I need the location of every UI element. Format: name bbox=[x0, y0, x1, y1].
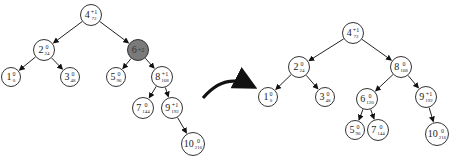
tree-edge bbox=[429, 108, 433, 122]
node-key: 4 bbox=[347, 28, 352, 38]
node-balance: +1 bbox=[426, 91, 432, 97]
node-balance: 0 bbox=[369, 93, 372, 99]
tree-edge bbox=[100, 22, 129, 43]
node-key: 1 bbox=[7, 72, 12, 82]
tree-edge bbox=[306, 75, 318, 88]
node-value: 144 bbox=[142, 109, 150, 114]
node-key: 8 bbox=[394, 62, 399, 72]
before-tree-node-6: 6+2 bbox=[127, 39, 149, 61]
node-value: 0 bbox=[270, 98, 273, 103]
node-balance: +1 bbox=[91, 9, 97, 15]
after-tree-node-8: 80168 bbox=[390, 56, 412, 78]
node-meta: 024 bbox=[300, 61, 305, 73]
before-tree-node-3: 3048 bbox=[60, 67, 80, 87]
node-meta: 0216 bbox=[195, 138, 203, 150]
before-tree-node-4: 4+172 bbox=[80, 4, 102, 26]
node-meta: 0216 bbox=[439, 128, 447, 140]
before-tree-node-7: 70144 bbox=[132, 97, 154, 119]
after-tree-node-4: 4+172 bbox=[342, 22, 364, 44]
node-meta: +2 bbox=[138, 47, 144, 54]
node-key: 3 bbox=[65, 72, 70, 82]
after-tree-node-5: 5096 bbox=[345, 120, 365, 140]
node-key: 8 bbox=[155, 72, 160, 82]
node-meta: 00 bbox=[270, 91, 273, 103]
node-key: 2 bbox=[39, 45, 44, 55]
node-key: 4 bbox=[85, 10, 90, 20]
node-key: 9 bbox=[165, 103, 170, 113]
node-value: 144 bbox=[377, 131, 385, 136]
tree-edge bbox=[123, 59, 131, 69]
node-key: 2 bbox=[294, 62, 299, 72]
node-balance: 0 bbox=[357, 124, 360, 130]
node-balance: 0 bbox=[441, 128, 444, 134]
node-value: 168 bbox=[161, 78, 169, 83]
node-key: 10 bbox=[184, 139, 194, 149]
before-tree-node-9: 9+1192 bbox=[161, 97, 183, 119]
node-key: 5 bbox=[111, 72, 116, 82]
node-key: 7 bbox=[371, 125, 376, 135]
tree-edge bbox=[165, 87, 168, 96]
tree-edge bbox=[20, 57, 36, 70]
node-key: 5 bbox=[350, 125, 355, 135]
node-key: 6 bbox=[360, 94, 365, 104]
tree-edge bbox=[145, 58, 154, 68]
node-key: 7 bbox=[136, 103, 141, 113]
node-meta: 0144 bbox=[142, 102, 150, 114]
node-value: 48 bbox=[326, 98, 331, 103]
node-balance: 0 bbox=[270, 91, 273, 97]
node-value: 192 bbox=[171, 109, 179, 114]
node-value: 24 bbox=[45, 51, 50, 56]
node-key: 1 bbox=[264, 92, 269, 102]
tree-edge bbox=[149, 86, 156, 97]
tree-edge bbox=[362, 39, 391, 60]
node-value: 0 bbox=[13, 78, 16, 83]
node-value: 216 bbox=[439, 135, 447, 140]
node-meta: 048 bbox=[326, 91, 331, 103]
node-value: 96 bbox=[356, 131, 361, 136]
node-balance: 0 bbox=[327, 91, 330, 97]
node-meta: +1192 bbox=[171, 102, 179, 114]
node-value: 120 bbox=[366, 100, 374, 105]
node-balance: +1 bbox=[353, 27, 359, 33]
after-tree-node-2: 2024 bbox=[288, 56, 310, 78]
tree-edge bbox=[309, 39, 344, 61]
node-balance: +1 bbox=[162, 71, 168, 77]
node-balance: 0 bbox=[13, 71, 16, 77]
node-meta: 0144 bbox=[377, 124, 385, 136]
curved-right-arrow-icon bbox=[203, 81, 252, 98]
node-balance: +2 bbox=[138, 47, 144, 53]
node-meta: 024 bbox=[45, 44, 50, 56]
node-value: 216 bbox=[195, 145, 203, 150]
node-balance: 0 bbox=[197, 138, 200, 144]
node-balance: 0 bbox=[72, 71, 75, 77]
node-value: 96 bbox=[117, 78, 122, 83]
node-balance: 0 bbox=[380, 124, 383, 130]
tree-edge bbox=[408, 75, 418, 87]
node-key: 3 bbox=[320, 92, 325, 102]
node-meta: 00 bbox=[13, 71, 16, 83]
node-meta: 096 bbox=[117, 71, 122, 83]
node-balance: 0 bbox=[301, 61, 304, 67]
node-meta: +1192 bbox=[425, 91, 433, 103]
node-meta: +1168 bbox=[161, 71, 169, 83]
node-balance: +1 bbox=[172, 102, 178, 108]
after-tree-node-7: 70144 bbox=[367, 119, 389, 141]
after-tree-node-1: 100 bbox=[258, 87, 278, 107]
before-tree-node-8: 8+1168 bbox=[151, 66, 173, 88]
node-balance: 0 bbox=[46, 44, 49, 50]
tree-edge bbox=[276, 75, 291, 90]
node-value: 168 bbox=[400, 68, 408, 73]
node-meta: +172 bbox=[353, 27, 359, 39]
node-balance: 0 bbox=[403, 61, 406, 67]
after-tree-node-10: 100216 bbox=[425, 122, 449, 146]
node-meta: +172 bbox=[91, 9, 97, 21]
node-key: 9 bbox=[419, 92, 424, 102]
after-tree-node-6: 60120 bbox=[356, 88, 378, 110]
node-value: 48 bbox=[71, 78, 76, 83]
tree-edge bbox=[371, 109, 374, 118]
node-meta: 096 bbox=[356, 124, 361, 136]
node-value: 24 bbox=[300, 68, 305, 73]
tree-edge bbox=[178, 118, 187, 133]
node-balance: 0 bbox=[145, 102, 148, 108]
node-value: 72 bbox=[91, 16, 96, 21]
